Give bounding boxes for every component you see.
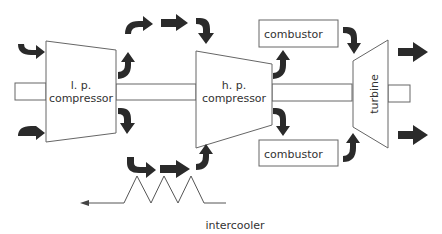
combustor-top-label: combustor xyxy=(264,28,323,41)
intercooler-inlet-arrow-icon xyxy=(127,157,156,178)
lp-compressor-label-line2: compressor xyxy=(49,92,114,105)
combustor-bottom-label: combustor xyxy=(264,148,323,161)
intercooler-flow-arrowhead-icon xyxy=(80,200,89,206)
lp-compressor: l. p. compressor xyxy=(46,41,116,142)
combustor-top: combustor xyxy=(259,20,338,47)
hp-compressor-label-line2: compressor xyxy=(202,92,267,105)
hp-inlet-arrow-up-icon xyxy=(196,144,213,170)
combustor-top-outlet-arrow-icon xyxy=(343,27,361,54)
gas-turbine-diagram: l. p. compressor h. p. compressor combus… xyxy=(0,0,442,234)
shaft-right-stub xyxy=(388,85,410,102)
inlet-arrow-bottom-icon xyxy=(18,126,45,140)
shaft-hp-turbine xyxy=(272,84,352,101)
turbine-label: turbine xyxy=(368,74,381,114)
hp-inlet-arrow-down-icon xyxy=(196,18,214,44)
hp-outlet-arrow-up-icon xyxy=(273,50,290,79)
turbine: turbine xyxy=(353,40,388,148)
lp-compressor-label-line1: l. p. xyxy=(71,79,92,92)
hp-outlet-arrow-down-icon xyxy=(273,108,290,136)
inlet-arrow-top-icon xyxy=(18,44,45,59)
lp-outlet-arrow-down-icon xyxy=(118,108,135,134)
intercooler-flow-arrow-icon xyxy=(160,160,190,178)
intercooler: intercooler xyxy=(80,176,265,232)
lp-outlet-arrow-up-icon xyxy=(118,52,135,79)
shaft-lp-hp xyxy=(116,84,196,100)
lp-outlet-arrow-curve-icon xyxy=(125,16,153,34)
intercooler-bypass-arrow-icon xyxy=(161,14,188,31)
exhaust-arrow-bottom-icon xyxy=(398,125,428,145)
hp-compressor-label-line1: h. p. xyxy=(222,79,246,92)
combustor-bottom: combustor xyxy=(259,140,338,166)
shaft-left-stub xyxy=(15,83,46,100)
hp-compressor: h. p. compressor xyxy=(196,51,272,148)
intercooler-label: intercooler xyxy=(205,219,265,232)
combustor-bottom-outlet-arrow-icon xyxy=(343,133,360,162)
exhaust-arrow-top-icon xyxy=(398,42,428,62)
